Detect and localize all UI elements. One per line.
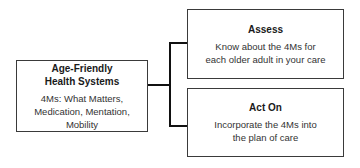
- root-body-line-1: 4Ms: What Matters,: [34, 92, 130, 105]
- root-node-title: Age-Friendly Health Systems: [45, 62, 119, 88]
- child-node-assess: Assess Know about the 4Ms for each older…: [187, 9, 344, 79]
- assess-title: Assess: [248, 23, 283, 36]
- root-node-age-friendly-health-systems: Age-Friendly Health Systems 4Ms: What Ma…: [16, 60, 148, 132]
- connector-vertical-trunk: [169, 42, 171, 127]
- root-title-line-2: Health Systems: [45, 75, 119, 88]
- root-body-line-2: Medication, Mentation,: [34, 105, 130, 118]
- root-body-line-3: Mobility: [34, 118, 130, 131]
- act-on-body-line-2: the plan of care: [214, 131, 316, 144]
- act-on-title: Act On: [249, 101, 282, 114]
- child-node-act-on: Act On Incorporate the 4Ms into the plan…: [187, 88, 344, 157]
- assess-body-line-1: Know about the 4Ms for: [206, 40, 326, 53]
- assess-body: Know about the 4Ms for each older adult …: [206, 40, 326, 66]
- root-title-line-1: Age-Friendly: [45, 62, 119, 75]
- act-on-body-line-1: Incorporate the 4Ms into: [214, 118, 316, 131]
- connector-root-horizontal: [148, 84, 170, 86]
- assess-body-line-2: each older adult in your care: [206, 53, 326, 66]
- connector-to-act-on: [169, 125, 188, 127]
- root-node-body: 4Ms: What Matters, Medication, Mentation…: [34, 92, 130, 131]
- connector-to-assess: [169, 42, 188, 44]
- act-on-body: Incorporate the 4Ms into the plan of car…: [214, 118, 316, 144]
